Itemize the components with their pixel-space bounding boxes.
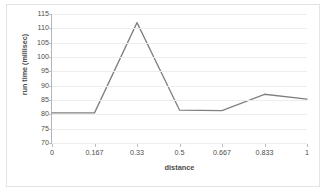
gridline xyxy=(52,114,307,115)
x-tick-label: 0.33 xyxy=(117,149,157,156)
y-tick-label: 90 xyxy=(25,82,49,89)
y-tick-label: 110 xyxy=(25,25,49,32)
y-tick-mark xyxy=(48,143,51,144)
gridline xyxy=(52,43,307,44)
y-tick-mark xyxy=(48,129,51,130)
x-axis-tick-labels: 00.1670.330.50.6670.8331 xyxy=(52,149,307,161)
x-tick-mark xyxy=(180,144,181,147)
x-tick-mark xyxy=(137,144,138,147)
x-tick-mark xyxy=(52,144,53,147)
y-tick-mark xyxy=(48,100,51,101)
x-tick-label: 0 xyxy=(32,149,72,156)
x-tick-mark xyxy=(95,144,96,147)
line-series-run-time xyxy=(52,14,307,143)
gridline xyxy=(52,71,307,72)
y-tick-label: 115 xyxy=(25,10,49,17)
y-tick-label: 100 xyxy=(25,53,49,60)
y-tick-label: 75 xyxy=(25,125,49,132)
y-tick-mark xyxy=(48,114,51,115)
y-tick-mark xyxy=(48,71,51,72)
x-tick-mark xyxy=(265,144,266,147)
x-axis-title: distance xyxy=(52,163,307,172)
x-tick-label: 0.5 xyxy=(160,149,200,156)
y-axis-tick-labels: 707580859095100105110115 xyxy=(25,14,49,143)
x-tick-mark xyxy=(307,144,308,147)
chart-frame: run time (millisec) 70758085909510010511… xyxy=(6,4,320,187)
x-tick-mark xyxy=(222,144,223,147)
gridline xyxy=(52,86,307,87)
x-tick-label: 0.167 xyxy=(75,149,115,156)
y-tick-mark xyxy=(48,28,51,29)
y-tick-label: 80 xyxy=(25,111,49,118)
y-tick-label: 85 xyxy=(25,96,49,103)
gridline xyxy=(52,57,307,58)
y-tick-label: 95 xyxy=(25,68,49,75)
y-tick-mark xyxy=(48,14,51,15)
gridline xyxy=(52,129,307,130)
y-tick-label: 70 xyxy=(25,139,49,146)
gridline xyxy=(52,100,307,101)
x-tick-label: 1 xyxy=(287,149,327,156)
y-tick-mark xyxy=(48,43,51,44)
y-tick-mark xyxy=(48,57,51,58)
plot-area xyxy=(52,14,307,143)
gridline xyxy=(52,14,307,15)
x-tick-label: 0.833 xyxy=(245,149,285,156)
y-tick-label: 105 xyxy=(25,39,49,46)
y-tick-mark xyxy=(48,86,51,87)
gridline xyxy=(52,28,307,29)
x-tick-label: 0.667 xyxy=(202,149,242,156)
